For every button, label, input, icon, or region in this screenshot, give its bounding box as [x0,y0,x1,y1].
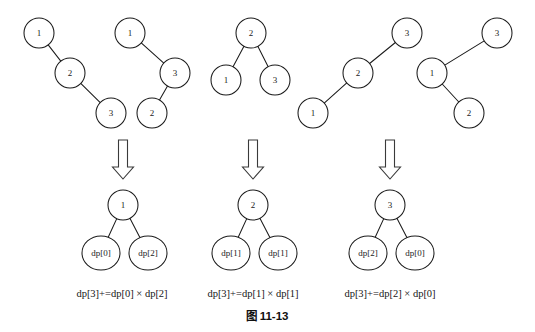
tree-edge [233,46,244,67]
result-tree-3: 3dp[2]dp[0]dp[3]+=dp[2] × dp[0] [344,190,435,299]
tree-node-label: 3 [273,75,278,85]
tree-node-label: 3 [405,28,410,38]
result-root-label: 3 [388,200,393,210]
tree-node-label: 2 [249,28,254,38]
figure-canvas: 123132213321312 1dp[0]dp[2]dp[3]+=dp[0] … [0,0,535,332]
result-tree-edge [130,218,140,238]
result-child-label: dp[1] [221,248,241,258]
figure-binary-tree-dp: 123132213321312 1dp[0]dp[2]dp[3]+=dp[0] … [0,0,535,332]
tree-node-label: 1 [430,68,435,78]
tree-node-label: 3 [173,68,178,78]
top-trees-layer: 123132213321312 [24,18,512,128]
figure-caption: 图 11-13 [246,309,289,322]
result-child-label: dp[0] [405,248,425,258]
result-tree-edge [375,219,384,238]
down-arrow-icon [113,140,134,179]
tree-node-label: 2 [150,108,155,118]
result-child-label: dp[2] [358,248,378,258]
tree-node-label: 1 [37,28,42,38]
top-tree-4: 321 [298,18,422,128]
result-trees-layer: 1dp[0]dp[2]dp[3]+=dp[0] × dp[2]2dp[1]dp[… [76,190,435,299]
tree-edge [48,45,61,61]
tree-node-label: 1 [311,108,316,118]
tree-node-label: 1 [128,28,133,38]
tree-edge [141,43,164,63]
tree-edge [258,46,268,66]
result-tree-edge [108,219,117,238]
tree-node-label: 3 [109,108,114,118]
result-child-label: dp[2] [138,248,158,258]
result-tree-edge [238,219,247,238]
tree-node-label: 2 [68,68,73,78]
tree-node-label: 1 [224,75,229,85]
top-tree-1: 123 [24,18,126,128]
tree-edge [159,86,167,100]
result-child-label: dp[1] [268,248,288,258]
recurrence-formula: dp[3]+=dp[0] × dp[2] [76,288,167,299]
down-arrow-icon [380,140,401,179]
result-tree-edge [260,218,270,238]
tree-edge [81,83,101,102]
top-tree-3: 213 [211,18,290,95]
result-root-label: 2 [251,200,256,210]
top-tree-5: 312 [417,18,512,128]
tree-edge [442,84,459,102]
tree-node-label: 3 [495,28,500,38]
arrows-layer [113,140,401,179]
result-tree-edge [397,218,407,238]
result-tree-1: 1dp[0]dp[2]dp[3]+=dp[0] × dp[2] [76,190,167,299]
result-child-label: dp[0] [91,248,111,258]
tree-node-label: 2 [467,108,472,118]
tree-edge [324,83,347,103]
tree-edge [370,42,396,63]
down-arrow-icon [243,140,264,179]
tree-edge [445,41,484,65]
result-tree-2: 2dp[1]dp[1]dp[3]+=dp[1] × dp[1] [207,190,298,299]
tree-node-label: 2 [356,68,361,78]
recurrence-formula: dp[3]+=dp[1] × dp[1] [207,288,298,299]
recurrence-formula: dp[3]+=dp[2] × dp[0] [344,288,435,299]
result-root-label: 1 [121,200,126,210]
